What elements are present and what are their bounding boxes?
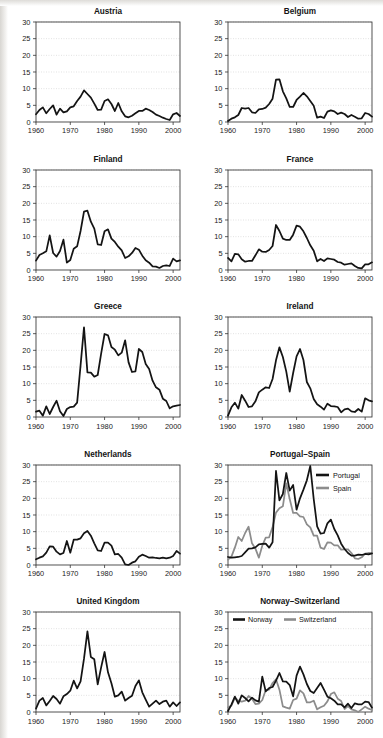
x-tick-label: 1990 (131, 274, 147, 283)
y-tick-label: 10 (22, 380, 30, 389)
y-tick-label: 5 (218, 249, 222, 258)
chart-panel-norway-switzerland: Norway–Switzerland0510152025301960197019… (192, 590, 383, 738)
panel-title: Portugal–Spain (269, 450, 329, 459)
y-tick-label: 10 (214, 380, 222, 389)
panel-title: Greece (94, 302, 122, 311)
x-tick-label: 1990 (322, 126, 338, 135)
chart-panel-greece: Greece05101520253019601970198019902000 (0, 295, 192, 443)
y-tick-label: 15 (22, 68, 30, 77)
y-tick-label: 20 (214, 346, 222, 355)
series-line-belgium (228, 79, 372, 121)
y-tick-label: 30 (22, 313, 30, 322)
y-tick-label: 25 (22, 477, 30, 486)
series-line-portugal (228, 466, 372, 558)
chart-panel-united-kingdom: United Kingdom05101520253019601970198019… (0, 590, 192, 738)
x-tick-label: 1990 (322, 569, 338, 578)
panel-title: Finland (93, 155, 122, 164)
series-line-greece (36, 328, 180, 417)
plot-frame (228, 465, 372, 565)
x-tick-label: 1960 (219, 569, 235, 578)
y-tick-label: 5 (26, 249, 30, 258)
y-tick-label: 20 (22, 346, 30, 355)
x-tick-label: 2000 (356, 569, 372, 578)
y-tick-label: 5 (218, 691, 222, 700)
x-tick-label: 2000 (165, 569, 181, 578)
y-tick-label: 0 (218, 560, 222, 569)
y-tick-label: 0 (26, 118, 30, 127)
y-tick-label: 15 (214, 215, 222, 224)
plot-frame (36, 465, 180, 565)
y-tick-label: 15 (22, 658, 30, 667)
y-tick-label: 0 (218, 118, 222, 127)
y-tick-label: 20 (22, 641, 30, 650)
y-tick-label: 20 (214, 641, 222, 650)
plot-frame (36, 22, 180, 122)
chart-panel-finland: Finland05101520253019601970198019902000 (0, 148, 192, 296)
y-tick-label: 20 (22, 494, 30, 503)
y-tick-label: 15 (214, 363, 222, 372)
y-tick-label: 10 (214, 527, 222, 536)
y-tick-label: 10 (214, 232, 222, 241)
x-tick-label: 1980 (96, 569, 112, 578)
panel-title: Ireland (286, 302, 313, 311)
x-tick-label: 1970 (254, 422, 270, 431)
x-tick-label: 1990 (322, 422, 338, 431)
y-tick-label: 15 (22, 510, 30, 519)
y-tick-label: 5 (26, 544, 30, 553)
y-tick-label: 5 (218, 396, 222, 405)
series-line-france (228, 225, 372, 268)
y-tick-label: 0 (218, 265, 222, 274)
x-tick-label: 1980 (96, 126, 112, 135)
plot-frame (36, 612, 180, 712)
panel-title: Netherlands (84, 450, 132, 459)
y-tick-label: 20 (22, 199, 30, 208)
x-tick-label: 2000 (165, 422, 181, 431)
y-tick-label: 10 (214, 675, 222, 684)
x-tick-label: 1970 (254, 717, 270, 726)
y-tick-label: 30 (214, 18, 222, 27)
x-tick-label: 2000 (356, 274, 372, 283)
y-tick-label: 25 (214, 477, 222, 486)
x-tick-label: 2000 (356, 717, 372, 726)
x-tick-label: 1960 (219, 422, 235, 431)
y-tick-label: 15 (214, 68, 222, 77)
y-tick-label: 0 (26, 560, 30, 569)
panel-title: Norway–Switzerland (260, 597, 340, 606)
x-tick-label: 1970 (254, 569, 270, 578)
x-tick-label: 2000 (356, 422, 372, 431)
y-tick-label: 30 (22, 608, 30, 617)
x-tick-label: 2000 (165, 717, 181, 726)
panel-title: Belgium (283, 7, 315, 16)
series-line-austria (36, 90, 180, 120)
x-tick-label: 1970 (62, 422, 78, 431)
y-tick-label: 15 (22, 363, 30, 372)
panel-title: France (286, 155, 313, 164)
x-tick-label: 1970 (62, 274, 78, 283)
x-tick-label: 1990 (131, 422, 147, 431)
chart-panel-ireland: Ireland05101520253019601970198019902000 (192, 295, 383, 443)
y-tick-label: 5 (26, 101, 30, 110)
series-line-netherlands (36, 531, 180, 565)
y-tick-label: 30 (214, 165, 222, 174)
x-tick-label: 1970 (254, 126, 270, 135)
y-tick-label: 0 (26, 413, 30, 422)
y-tick-label: 20 (214, 199, 222, 208)
x-tick-label: 1960 (28, 274, 44, 283)
x-tick-label: 1970 (62, 126, 78, 135)
y-tick-label: 15 (214, 658, 222, 667)
x-tick-label: 1980 (288, 126, 304, 135)
y-tick-label: 25 (22, 34, 30, 43)
y-tick-label: 25 (22, 625, 30, 634)
y-tick-label: 10 (22, 675, 30, 684)
y-tick-label: 0 (26, 708, 30, 717)
x-tick-label: 1980 (288, 422, 304, 431)
y-tick-label: 15 (214, 510, 222, 519)
y-tick-label: 30 (214, 313, 222, 322)
x-tick-label: 1960 (219, 274, 235, 283)
y-tick-label: 30 (22, 18, 30, 27)
x-tick-label: 2000 (165, 274, 181, 283)
x-tick-label: 1960 (28, 569, 44, 578)
x-tick-label: 1970 (254, 274, 270, 283)
x-tick-label: 1960 (28, 422, 44, 431)
y-tick-label: 0 (26, 265, 30, 274)
